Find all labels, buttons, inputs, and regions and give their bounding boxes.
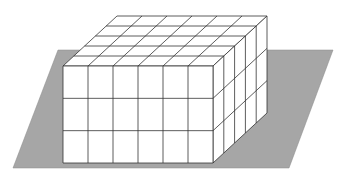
unit-cube-prism-diagram xyxy=(0,0,343,179)
cube-prism xyxy=(63,16,267,163)
diagram-canvas xyxy=(0,0,343,179)
